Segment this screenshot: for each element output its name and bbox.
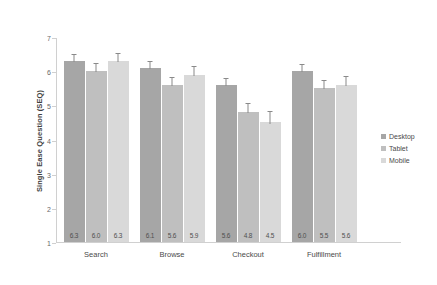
bar-slot[interactable]: 5.9	[184, 38, 205, 242]
legend-swatch-icon	[381, 146, 386, 151]
bar-value-label: 6.3	[108, 232, 129, 239]
bar-value-label: 4.5	[260, 232, 281, 239]
error-bar	[172, 78, 173, 86]
error-bar	[302, 65, 303, 72]
legend-item-mobile[interactable]: Mobile	[381, 155, 415, 166]
y-tick-label: 7	[47, 35, 51, 42]
error-bar	[324, 81, 325, 89]
error-bar-cap	[170, 77, 175, 78]
bar-slot[interactable]: 6.0	[86, 38, 107, 242]
y-tick-mark	[52, 243, 56, 244]
bar-group: 6.36.06.3Search	[57, 38, 135, 242]
bar-value-label: 5.6	[162, 232, 183, 239]
error-bar	[96, 64, 97, 72]
error-bar	[150, 62, 151, 69]
x-axis-category-label: Checkout	[209, 250, 287, 259]
y-tick-mark	[52, 106, 56, 107]
bar-value-label: 5.5	[314, 232, 335, 239]
bar-slot[interactable]: 6.1	[140, 38, 161, 242]
bar-value-label: 6.1	[140, 232, 161, 239]
bar-slot[interactable]: 5.6	[216, 38, 237, 242]
plot-area: 7654321 6.36.06.3Search6.15.65.9Browse5.…	[56, 38, 366, 243]
bar-fulfillment-desktop[interactable]: 6.0	[292, 71, 313, 242]
legend-label: Mobile	[389, 157, 410, 164]
y-tick-label: 2	[47, 205, 51, 212]
x-axis-line	[56, 242, 401, 243]
bar-slot[interactable]: 5.6	[162, 38, 183, 242]
bar-checkout-mobile[interactable]: 4.5	[260, 122, 281, 242]
error-bar	[74, 55, 75, 62]
error-bar-cap	[300, 64, 305, 65]
y-tick-label: 3	[47, 171, 51, 178]
y-tick-mark	[52, 141, 56, 142]
error-bar	[226, 79, 227, 86]
y-tick-label: 1	[47, 240, 51, 247]
bar-value-label: 6.0	[86, 232, 107, 239]
error-bar-cap	[72, 54, 77, 55]
legend-swatch-icon	[381, 158, 386, 163]
y-tick-label: 6	[47, 69, 51, 76]
bar-value-label: 5.9	[184, 232, 205, 239]
y-tick-mark	[52, 38, 56, 39]
bar-slot[interactable]: 6.3	[64, 38, 85, 242]
error-bar-cap	[322, 80, 327, 81]
bar-slot[interactable]: 6.3	[108, 38, 129, 242]
bars-layer: 6.36.06.3Search6.15.65.9Browse5.64.84.5C…	[57, 38, 366, 242]
y-tick-mark	[52, 175, 56, 176]
legend: DesktopTabletMobile	[381, 131, 415, 167]
bar-group: 6.15.65.9Browse	[133, 38, 211, 242]
error-bar-cap	[94, 63, 99, 64]
error-bar-cap	[268, 111, 273, 112]
bar-browse-tablet[interactable]: 5.6	[162, 85, 183, 242]
error-bar-cap	[246, 103, 251, 104]
bar-fulfillment-tablet[interactable]: 5.5	[314, 88, 335, 242]
y-tick-label: 4	[47, 137, 51, 144]
bar-value-label: 5.6	[336, 232, 357, 239]
legend-label: Desktop	[389, 133, 415, 140]
error-bar	[346, 77, 347, 86]
legend-item-desktop[interactable]: Desktop	[381, 131, 415, 142]
bar-value-label: 4.8	[238, 232, 259, 239]
legend-item-tablet[interactable]: Tablet	[381, 143, 415, 154]
error-bar	[118, 54, 119, 62]
bar-search-mobile[interactable]: 6.3	[108, 61, 129, 242]
y-tick-mark	[52, 72, 56, 73]
error-bar-cap	[148, 61, 153, 62]
error-bar-cap	[344, 76, 349, 77]
bar-group: 5.64.84.5Checkout	[209, 38, 287, 242]
bar-slot[interactable]: 5.5	[314, 38, 335, 242]
bar-group: 6.05.55.6Fulfillment	[285, 38, 363, 242]
y-tick-label: 5	[47, 103, 51, 110]
bar-search-tablet[interactable]: 6.0	[86, 71, 107, 242]
bar-slot[interactable]: 4.5	[260, 38, 281, 242]
bar-search-desktop[interactable]: 6.3	[64, 61, 85, 242]
x-axis-category-label: Fulfillment	[285, 250, 363, 259]
x-axis-category-label: Search	[57, 250, 135, 259]
bar-browse-mobile[interactable]: 5.9	[184, 75, 205, 242]
bar-fulfillment-mobile[interactable]: 5.6	[336, 85, 357, 242]
bar-value-label: 5.6	[216, 232, 237, 239]
error-bar	[194, 67, 195, 76]
error-bar-cap	[192, 66, 197, 67]
bar-slot[interactable]: 4.8	[238, 38, 259, 242]
bar-checkout-tablet[interactable]: 4.8	[238, 112, 259, 242]
bar-slot[interactable]: 6.0	[292, 38, 313, 242]
error-bar-cap	[116, 53, 121, 54]
x-axis-category-label: Browse	[133, 250, 211, 259]
bar-checkout-desktop[interactable]: 5.6	[216, 85, 237, 242]
bar-browse-desktop[interactable]: 6.1	[140, 68, 161, 242]
bar-value-label: 6.3	[64, 232, 85, 239]
error-bar-cap	[224, 78, 229, 79]
bar-value-label: 6.0	[292, 232, 313, 239]
y-tick-mark	[52, 209, 56, 210]
legend-label: Tablet	[389, 145, 408, 152]
legend-swatch-icon	[381, 134, 386, 139]
error-bar	[270, 112, 271, 124]
y-axis-title: Single Ease Question (SEQ)	[33, 61, 47, 221]
bar-chart: Single Ease Question (SEQ) 7654321 6.36.…	[0, 0, 437, 285]
error-bar	[248, 104, 249, 113]
bar-slot[interactable]: 5.6	[336, 38, 357, 242]
